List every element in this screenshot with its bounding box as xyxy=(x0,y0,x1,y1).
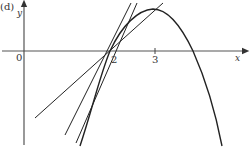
panel-label: (d) xyxy=(0,1,14,12)
y-axis-label: y xyxy=(16,8,23,18)
secant-line-1 xyxy=(35,3,163,118)
secant-line-2 xyxy=(65,3,131,135)
origin-label: 0 xyxy=(16,52,22,63)
curve xyxy=(80,9,222,146)
tick-label-3: 3 xyxy=(152,54,158,65)
tick-label-2: 2 xyxy=(111,54,117,65)
x-axis-label: x xyxy=(235,53,240,63)
diagram: (d) y 0 2 3 x xyxy=(0,0,250,148)
